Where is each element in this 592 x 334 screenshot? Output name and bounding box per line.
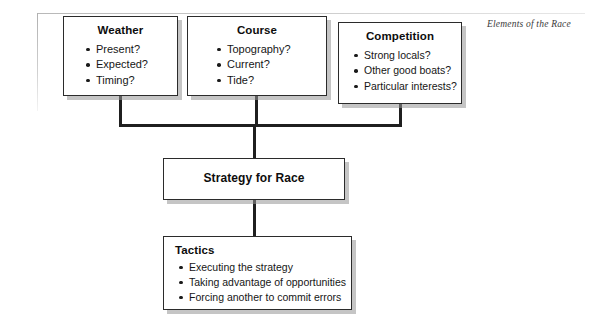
node-competition-title: Competition xyxy=(339,30,461,43)
node-weather-title: Weather xyxy=(64,24,177,37)
connector-competition-drop xyxy=(399,104,402,126)
list-item: Tide? xyxy=(216,73,326,89)
page-frame-left-line xyxy=(37,13,38,111)
node-course-list: Topography? Current? Tide? xyxy=(216,42,326,89)
list-item: Expected? xyxy=(85,57,177,73)
node-tactics-title: Tactics xyxy=(175,244,351,257)
connector-horizontal-bus xyxy=(119,124,402,127)
list-item: Current? xyxy=(216,57,326,73)
list-item: Strong locals? xyxy=(353,48,461,64)
connector-weather-drop xyxy=(119,96,122,126)
list-item: Topography? xyxy=(216,42,326,58)
node-tactics-list: Executing the strategy Taking advantage … xyxy=(178,260,351,305)
connector-strategy-to-tactics xyxy=(253,198,256,238)
node-weather-list: Present? Expected? Timing? xyxy=(85,42,177,89)
connector-bus-to-strategy xyxy=(253,124,256,160)
node-tactics[interactable]: Tactics Executing the strategy Taking ad… xyxy=(163,236,352,310)
node-course[interactable]: Course Topography? Current? Tide? xyxy=(187,16,327,96)
node-strategy-for-race[interactable]: Strategy for Race xyxy=(163,158,345,200)
node-weather[interactable]: Weather Present? Expected? Timing? xyxy=(63,16,178,96)
node-course-title: Course xyxy=(188,24,326,37)
node-strategy-title: Strategy for Race xyxy=(203,172,304,185)
connector-course-drop xyxy=(255,96,258,126)
list-item: Particular interests? xyxy=(353,79,461,95)
list-item: Taking advantage of opportunities xyxy=(178,275,351,290)
node-competition[interactable]: Competition Strong locals? Other good bo… xyxy=(338,22,462,104)
node-competition-list: Strong locals? Other good boats? Particu… xyxy=(353,48,461,95)
list-item: Present? xyxy=(85,42,177,58)
list-item: Executing the strategy xyxy=(178,260,351,275)
figure-caption: Elements of the Race xyxy=(487,19,571,29)
diagram-canvas: Weather Present? Expected? Timing? Cours… xyxy=(0,0,592,334)
list-item: Timing? xyxy=(85,73,177,89)
page-frame-top-line xyxy=(37,13,585,14)
list-item: Other good boats? xyxy=(353,63,461,79)
list-item: Forcing another to commit errors xyxy=(178,290,351,305)
